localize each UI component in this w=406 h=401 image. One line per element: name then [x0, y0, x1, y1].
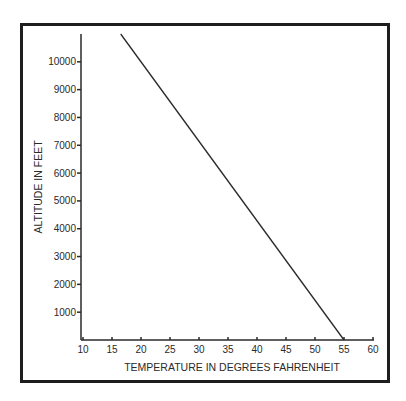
y-tick-label: 5000	[54, 195, 77, 206]
data-line	[121, 34, 344, 340]
y-tick-label: 4000	[54, 223, 77, 234]
y-tick-label: 9000	[54, 84, 77, 95]
x-tick-label: 45	[280, 344, 292, 355]
x-tick-label: 60	[367, 344, 379, 355]
x-axis-title: TEMPERATURE IN DEGREES FAHRENHEIT	[124, 361, 340, 373]
y-tick-label: 7000	[54, 140, 77, 151]
x-tick-label: 50	[309, 344, 321, 355]
x-tick-label: 25	[164, 344, 176, 355]
x-tick-label: 55	[338, 344, 350, 355]
y-tick-label: 10000	[48, 56, 76, 67]
axes	[81, 34, 374, 340]
y-tick-label: 3000	[54, 251, 77, 262]
x-tick-label: 35	[222, 344, 234, 355]
x-tick-label: 20	[135, 344, 147, 355]
y-tick-label: 8000	[54, 112, 77, 123]
altitude-temperature-chart: 1000200030004000500060007000800090001000…	[0, 0, 406, 401]
x-tick-label: 30	[193, 344, 205, 355]
y-tick-label: 1000	[54, 307, 77, 318]
x-tick-label: 15	[106, 344, 118, 355]
y-tick-label: 2000	[54, 279, 77, 290]
x-tick-label: 10	[77, 344, 89, 355]
series-line	[121, 34, 344, 340]
y-axis-title: ALTITUDE IN FEET	[32, 140, 44, 234]
x-tick-label: 40	[251, 344, 263, 355]
y-tick-label: 6000	[54, 168, 77, 179]
y-axis-ticks: 1000200030004000500060007000800090001000…	[48, 56, 81, 317]
